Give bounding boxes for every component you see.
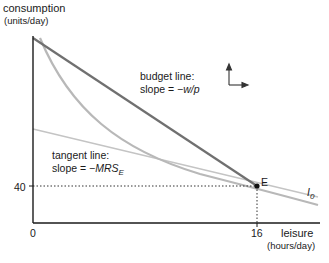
x-axis-label: leisure	[281, 227, 313, 239]
origin-label: 0	[30, 227, 36, 239]
diagram-canvas	[0, 0, 329, 263]
curve-label: I0	[307, 186, 314, 203]
y-axis-units: (units/day)	[4, 15, 48, 27]
y-axis-label: consumption	[3, 2, 65, 14]
indifference-curve	[40, 38, 318, 205]
budget-line-slope: slope = −w/p	[140, 83, 200, 95]
tangent-line-slope: slope = −MRSE	[52, 162, 124, 179]
up-right-arrows-icon	[227, 64, 249, 88]
x-axis-units: (hours/day)	[267, 240, 315, 252]
x-tick-label: 16	[251, 227, 263, 239]
y-tick-label: 40	[14, 181, 26, 193]
tangent-line-title: tangent line:	[52, 149, 109, 161]
point-e	[254, 183, 259, 188]
point-e-label: E	[261, 176, 268, 188]
budget-line-title: budget line:	[140, 70, 194, 82]
